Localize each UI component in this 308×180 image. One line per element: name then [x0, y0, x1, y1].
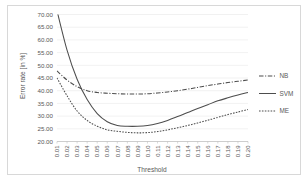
- x-axis-tick-label: 0.04: [84, 145, 90, 157]
- gridlines-group: [57, 15, 248, 142]
- x-axis-tick-label: 0.15: [195, 145, 201, 157]
- x-axis-tick-label: 0.09: [135, 145, 141, 157]
- y-axis-tick-label: 45.00: [38, 74, 54, 81]
- y-axis-tick-labels: 70.0065.0060.0055.0050.0045.0040.0035.00…: [38, 11, 54, 145]
- y-axis-tick-label: 70.00: [38, 11, 54, 18]
- x-axis-tick-label: 0.02: [64, 145, 70, 157]
- x-axis-tick-label: 0.18: [225, 145, 231, 157]
- chart-figure: 70.0065.0060.0055.0050.0045.0040.0035.00…: [0, 0, 308, 180]
- x-axis-tick-label: 0.17: [215, 145, 221, 157]
- x-axis-tick-label: 0.11: [155, 145, 161, 157]
- x-axis-tick-label: 0.16: [205, 145, 211, 157]
- x-axis-tick-label: 0.07: [115, 145, 121, 157]
- legend-label-nb: NB: [280, 72, 289, 79]
- line-chart: 70.0065.0060.0055.0050.0045.0040.0035.00…: [0, 0, 308, 180]
- x-axis-tick-labels: 0.010.020.030.040.050.060.070.080.090.10…: [54, 145, 251, 157]
- x-axis-title: Threshold: [137, 166, 167, 173]
- y-axis-tick-label: 50.00: [38, 62, 54, 69]
- y-axis-title: Error rate [in %]: [19, 53, 27, 99]
- x-axis-tick-label: 0.14: [185, 145, 191, 157]
- x-axis-tick-label: 0.10: [145, 145, 151, 157]
- chart-legend: NBSVMME: [259, 72, 293, 114]
- y-axis-tick-label: 20.00: [38, 138, 54, 145]
- y-axis-tick-label: 65.00: [38, 23, 54, 30]
- x-axis-tick-label: 0.05: [94, 145, 100, 157]
- y-axis-tick-label: 60.00: [38, 36, 54, 43]
- y-axis-tick-label: 55.00: [38, 49, 54, 56]
- x-axis-tick-label: 0.19: [235, 145, 241, 157]
- series-line-svm: [57, 11, 248, 127]
- y-axis-tick-label: 25.00: [38, 125, 54, 132]
- y-axis-tick-label: 35.00: [38, 100, 54, 107]
- x-axis-tick-label: 0.03: [74, 145, 80, 157]
- x-axis-tick-label: 0.06: [104, 145, 110, 157]
- y-axis-tick-label: 30.00: [38, 112, 54, 119]
- data-series-group: [57, 11, 248, 133]
- y-axis-tick-label: 40.00: [38, 87, 54, 94]
- x-axis-tick-label: 0.13: [175, 145, 181, 157]
- x-axis-tick-label: 0.01: [54, 145, 60, 157]
- x-axis-tick-label: 0.08: [125, 145, 131, 157]
- legend-label-svm: SVM: [280, 90, 294, 97]
- legend-label-me: ME: [280, 107, 290, 114]
- x-axis-tick-label: 0.12: [165, 145, 171, 157]
- x-axis-tick-label: 0.20: [245, 145, 251, 157]
